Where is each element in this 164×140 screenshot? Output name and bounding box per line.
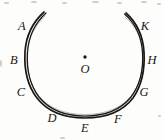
point-label-f: F [114, 113, 122, 126]
scan-speck [0, 60, 2, 67]
scan-speck [157, 3, 161, 5]
center-label-O: O [80, 63, 89, 76]
point-label-d: D [47, 112, 56, 125]
scan-speck [60, 137, 65, 139]
center-dot [83, 55, 86, 58]
scan-speck [62, 2, 67, 4]
scan-speck [92, 1, 99, 3]
point-label-a: A [18, 20, 26, 33]
scan-speck [31, 1, 37, 3]
scan-speck [158, 115, 161, 117]
scan-speck [4, 2, 9, 4]
point-label-b: B [10, 54, 18, 67]
geometry-figure: O A B C D E F G H K [0, 0, 164, 140]
point-label-k: K [141, 20, 150, 33]
scan-speck [117, 2, 122, 4]
point-label-c: C [17, 86, 26, 99]
point-label-h: H [147, 54, 156, 67]
point-label-e: E [81, 122, 89, 135]
point-label-g: G [139, 86, 148, 99]
scan-speck [141, 1, 147, 3]
